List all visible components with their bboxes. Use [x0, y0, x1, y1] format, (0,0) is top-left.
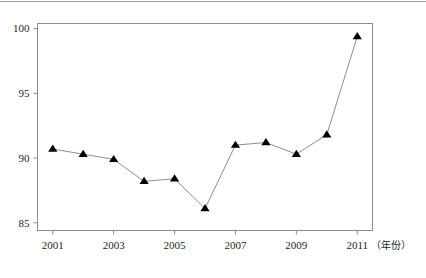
x-tick-label: 2001: [42, 239, 64, 251]
plot-frame: [38, 24, 373, 231]
line-chart-figure: 859095100 200120032005200720092011 （年份）: [0, 0, 426, 278]
x-tick-label: 2007: [224, 239, 247, 251]
y-tick-label: 85: [19, 217, 31, 229]
x-unit-text: （年份）: [371, 239, 411, 251]
chart-canvas: 859095100 200120032005200720092011 （年份）: [0, 0, 426, 278]
x-tick-label: 2011: [346, 239, 368, 251]
y-tick-label: 95: [19, 87, 31, 99]
x-tick-label: 2005: [164, 239, 187, 251]
x-axis-unit-label: （年份）: [371, 239, 411, 251]
y-axis-ticks: 859095100: [13, 22, 38, 228]
x-axis-ticks: 200120032005200720092011: [42, 231, 368, 251]
y-tick-label: 90: [19, 152, 31, 164]
x-tick-label: 2003: [103, 239, 126, 251]
y-tick-label: 100: [13, 22, 30, 34]
x-tick-label: 2009: [285, 239, 308, 251]
